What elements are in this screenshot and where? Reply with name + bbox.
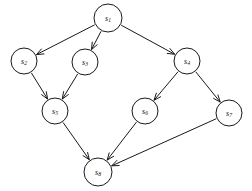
edge-line [31,73,47,99]
graph-diagram: s1s2s3s4s5s6s7s8 [0,0,252,191]
graph-edge [62,74,77,99]
graph-edge [121,25,175,54]
edge-line [112,119,217,166]
graph-edge [196,72,220,102]
graph-edge [112,119,217,166]
graph-node-s5[interactable]: s5 [42,98,68,124]
edge-line [196,72,220,102]
edge-line [121,25,175,54]
graph-node-s2[interactable]: s2 [11,48,37,74]
graph-node-s1[interactable]: s1 [94,4,122,32]
graph-canvas: s1s2s3s4s5s6s7s8 [0,0,252,191]
graph-node-s6[interactable]: s6 [132,98,158,124]
graph-node-s7[interactable]: s7 [216,100,242,126]
edge-line [154,72,178,101]
arrow-head-icon [42,92,48,99]
graph-node-s3[interactable]: s3 [72,49,98,75]
edge-layer [31,25,220,166]
edge-line [107,122,136,160]
graph-node-s8[interactable]: s8 [84,158,112,186]
graph-edge [91,31,101,49]
graph-edge [154,72,178,101]
edge-line [63,122,89,159]
arrow-head-icon [62,92,68,99]
graph-edge [107,122,136,160]
edge-line [62,74,77,99]
graph-edge [31,73,47,99]
graph-node-s4[interactable]: s4 [174,48,200,74]
graph-edge [63,122,89,159]
edge-line [91,31,101,49]
